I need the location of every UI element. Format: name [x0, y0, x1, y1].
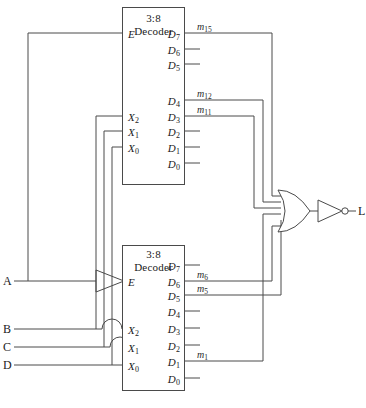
lower-decoder-d5-label: D5	[168, 291, 180, 305]
lower-decoder-box: 3:8 Decoder E X2 X1 X0 D7 D6 D5 D4 D3 D2…	[122, 245, 185, 391]
lower-decoder-x0-label: X0	[128, 361, 139, 375]
lower-decoder-x1-label: X1	[128, 343, 139, 357]
upper-decoder-d6-label: D6	[168, 45, 180, 59]
lower-decoder-enable-label: E	[128, 277, 135, 288]
upper-decoder-box: 3:8 Decoder E X2 X1 X0 D7 D6 D5 D4 D3 D2…	[122, 7, 185, 185]
minterm-label-m1: m1	[197, 350, 208, 363]
minterm-label-m5: m5	[197, 284, 208, 297]
upper-decoder-d7-label: D7	[168, 29, 180, 43]
upper-decoder-enable-label: E	[128, 29, 135, 40]
lower-decoder-d3-label: D3	[168, 324, 180, 338]
input-label-d: D	[3, 359, 12, 371]
lower-decoder-d6-label: D6	[168, 277, 180, 291]
lower-decoder-d1-label: D1	[168, 357, 180, 371]
lower-decoder-d0-label: D0	[168, 374, 180, 388]
output-label-l: L	[358, 205, 365, 217]
upper-decoder-d0-label: D0	[168, 159, 180, 173]
not-gate-output-bubble	[342, 208, 348, 214]
upper-decoder-d1-label: D1	[168, 143, 180, 157]
upper-decoder-x0-label: X0	[128, 143, 139, 157]
lower-decoder-d7-label: D7	[168, 261, 180, 275]
lower-decoder-title-line1: 3:8	[123, 248, 184, 260]
upper-decoder-d2-label: D2	[168, 127, 180, 141]
lower-decoder-d4-label: D4	[168, 307, 180, 321]
input-label-a: A	[3, 275, 12, 287]
upper-decoder-d4-label: D4	[168, 96, 180, 110]
lower-decoder-x2-label: X2	[128, 325, 139, 339]
lower-decoder-d2-label: D2	[168, 341, 180, 355]
minterm-label-m11: m11	[197, 105, 211, 118]
minterm-label-m6: m6	[197, 270, 208, 283]
upper-decoder-title-line1: 3:8	[123, 12, 184, 24]
upper-decoder-d5-label: D5	[168, 60, 180, 74]
circuit-diagram: 3:8 Decoder E X2 X1 X0 D7 D6 D5 D4 D3 D2…	[0, 0, 366, 408]
not-gate-input-triangle	[96, 270, 124, 292]
minterm-label-m15: m15	[197, 22, 212, 35]
input-label-b: B	[3, 323, 11, 335]
upper-decoder-x1-label: X1	[128, 127, 139, 141]
upper-decoder-d3-label: D3	[168, 112, 180, 126]
not-gate-output-triangle	[318, 200, 342, 222]
minterm-label-m12: m12	[197, 89, 212, 102]
upper-decoder-x2-label: X2	[128, 112, 139, 126]
or-gate-body	[278, 190, 310, 232]
input-label-c: C	[3, 341, 11, 353]
